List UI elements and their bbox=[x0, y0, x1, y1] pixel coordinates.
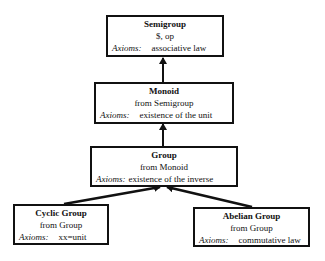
axioms-label: Axioms: bbox=[199, 234, 229, 246]
axioms-label: Axioms: bbox=[19, 231, 49, 243]
node-subtitle: $, op bbox=[108, 30, 222, 42]
node-subtitle: from Semigroup bbox=[96, 97, 232, 109]
node-subtitle: from Group bbox=[195, 222, 308, 234]
node-title: Semigroup bbox=[108, 18, 222, 30]
node-subtitle: from Group bbox=[15, 219, 107, 231]
axioms-text: xx=unit bbox=[59, 231, 87, 243]
node-title: Cyclic Group bbox=[15, 207, 107, 219]
node-title: Group bbox=[92, 149, 236, 161]
axioms-label: Axioms: bbox=[112, 42, 142, 54]
node-group: Group from Monoid Axioms:existence of th… bbox=[90, 146, 238, 187]
axioms-label: Axioms: bbox=[100, 109, 130, 121]
node-subtitle: from Monoid bbox=[92, 161, 236, 173]
axioms-text: existence of the inverse bbox=[129, 173, 214, 185]
node-semigroup: Semigroup $, op Axioms:associative law bbox=[106, 15, 224, 57]
node-title: Monoid bbox=[96, 85, 232, 97]
node-monoid: Monoid from Semigroup Axioms:existence o… bbox=[94, 82, 234, 124]
axioms-text: associative law bbox=[152, 42, 207, 54]
node-cyclic-group: Cyclic Group from Group Axioms:xx=unit bbox=[13, 204, 109, 245]
axioms-text: commutative law bbox=[239, 234, 301, 246]
axioms-label: Axioms: bbox=[96, 173, 126, 185]
node-title: Abelian Group bbox=[195, 210, 308, 222]
edge-abelian-to-group bbox=[167, 187, 252, 207]
axioms-text: existence of the unit bbox=[140, 109, 213, 121]
edge-cyclic-to-group bbox=[64, 187, 160, 204]
node-abelian-group: Abelian Group from Group Axioms:commutat… bbox=[193, 207, 310, 247]
